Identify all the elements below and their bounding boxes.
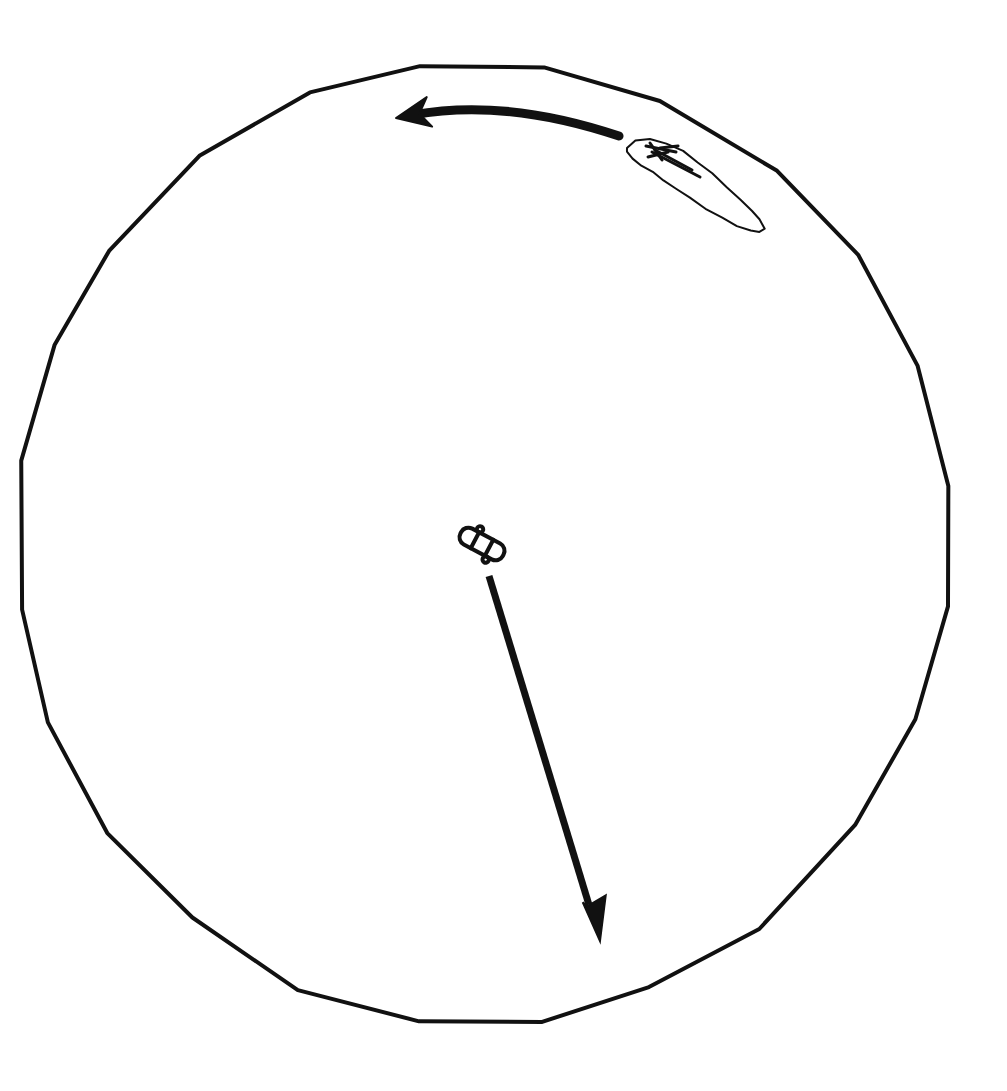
island-heading-mark — [660, 146, 678, 148]
hand-drawn-diagram: Hand-drawn circular diagram with rotatio… — [0, 0, 1007, 1091]
drawing-canvas: Hand-drawn circular diagram with rotatio… — [0, 0, 1007, 1091]
